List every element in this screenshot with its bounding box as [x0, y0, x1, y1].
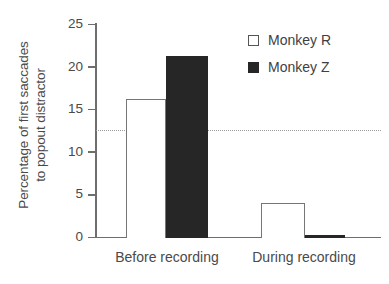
legend-label-monkey-z: Monkey Z: [268, 60, 329, 74]
chart-figure: Percentage of first saccades to popout d…: [0, 0, 389, 284]
bar-monkey-z-during-recording: [305, 235, 345, 238]
legend-filled-square-icon: [248, 62, 259, 73]
bar-monkey-r-before-recording: [126, 99, 166, 237]
y-tick-mark-10: [88, 151, 96, 153]
bar-monkey-r-during-recording: [261, 203, 305, 238]
y-tick-mark-0: [88, 237, 96, 239]
x-category-label-before-recording: Before recording: [106, 249, 228, 265]
y-tick-label-0: 0: [43, 230, 83, 244]
legend-open-square-icon: [248, 35, 259, 46]
chart-legend: Monkey R Monkey Z: [248, 33, 331, 74]
y-tick-label-10: 10: [43, 145, 83, 159]
y-tick-label-20: 20: [43, 60, 83, 74]
y-axis-title-line-1: Percentage of first saccades: [16, 41, 31, 209]
y-tick-mark-25: [88, 24, 96, 26]
y-axis-title: Percentage of first saccades to popout d…: [4, 0, 60, 250]
legend-label-monkey-r: Monkey R: [268, 33, 331, 47]
legend-item-monkey-z: Monkey Z: [248, 60, 331, 74]
y-tick-label-25: 25: [43, 17, 83, 31]
legend-item-monkey-r: Monkey R: [248, 33, 331, 47]
y-tick-label-5: 5: [43, 187, 83, 201]
y-tick-label-15: 15: [43, 102, 83, 116]
x-category-label-during-recording: During recording: [243, 249, 365, 265]
y-tick-mark-20: [88, 66, 96, 68]
bar-monkey-z-before-recording: [166, 56, 208, 238]
y-tick-mark-15: [88, 109, 96, 111]
y-tick-mark-5: [88, 194, 96, 196]
